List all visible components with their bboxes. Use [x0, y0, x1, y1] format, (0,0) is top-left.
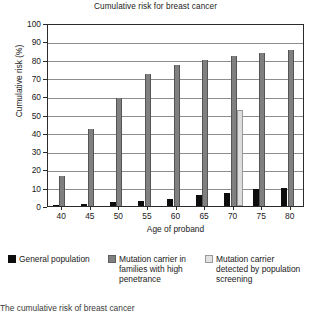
figure-caption: The cumulative risk of breast cancer [0, 303, 311, 314]
y-tick-label: 40 [11, 130, 41, 138]
legend-item-mutation-carrier-high-penetrance: Mutation carrier in families with high p… [108, 254, 204, 285]
x-tick-mark [147, 207, 148, 210]
y-tick-mark [43, 207, 47, 208]
bar [231, 56, 237, 206]
y-tick-label: 100 [11, 20, 41, 28]
x-tick-label: 75 [248, 212, 274, 221]
gridline [48, 43, 303, 44]
legend-label: Mutation carrier detected by population … [216, 254, 305, 285]
y-tick-label: 20 [11, 166, 41, 174]
x-tick-label: 55 [134, 212, 160, 221]
bar [224, 193, 230, 206]
legend-label: General population [19, 254, 90, 264]
bar [174, 65, 180, 206]
light-gray-swatch-icon [205, 255, 213, 263]
bar [59, 176, 65, 206]
x-tick-label: 50 [105, 212, 131, 221]
legend-item-mutation-carrier-population-screening: Mutation carrier detected by population … [205, 254, 305, 285]
bar [53, 205, 59, 206]
x-tick-label: 45 [77, 212, 103, 221]
x-tick-mark [290, 207, 291, 210]
bar [110, 202, 116, 206]
bar [138, 201, 144, 206]
legend-label: Mutation carrier in families with high p… [119, 254, 204, 285]
chart-legend: General population Mutation carrier in f… [0, 252, 311, 310]
bar [259, 53, 265, 206]
x-axis-title: Age of proband [47, 224, 304, 234]
y-tick-label: 50 [11, 112, 41, 120]
x-tick-label: 60 [163, 212, 189, 221]
x-tick-mark [118, 207, 119, 210]
plot-area [47, 24, 304, 207]
bar [145, 74, 151, 206]
y-tick-label: 30 [11, 148, 41, 156]
y-tick-label: 80 [11, 57, 41, 65]
y-tick-label: 0 [11, 203, 41, 211]
y-tick-label: 10 [11, 185, 41, 193]
bar [88, 129, 94, 206]
bar [196, 195, 202, 206]
y-tick-label: 70 [11, 75, 41, 83]
bar [253, 189, 259, 206]
x-tick-mark [176, 207, 177, 210]
legend-item-general-population: General population [8, 254, 103, 264]
bar [202, 60, 208, 206]
x-tick-mark [204, 207, 205, 210]
bar [116, 98, 122, 206]
x-tick-label: 70 [220, 212, 246, 221]
bar [288, 50, 294, 206]
x-tick-mark [261, 207, 262, 210]
x-tick-mark [61, 207, 62, 210]
figure: Cumulative risk for breast cancer Cumula… [0, 0, 311, 314]
x-tick-label: 40 [48, 212, 74, 221]
black-swatch-icon [8, 255, 16, 263]
bar [167, 199, 173, 206]
bar [81, 204, 87, 206]
bar [281, 188, 287, 206]
x-tick-mark [90, 207, 91, 210]
y-tick-label: 90 [11, 38, 41, 46]
y-tick-label: 60 [11, 93, 41, 101]
x-tick-mark [233, 207, 234, 210]
gray-swatch-icon [108, 255, 116, 263]
chart-title: Cumulative risk for breast cancer [0, 2, 311, 11]
bar [237, 110, 243, 206]
x-tick-label: 80 [277, 212, 303, 221]
x-tick-label: 65 [191, 212, 217, 221]
